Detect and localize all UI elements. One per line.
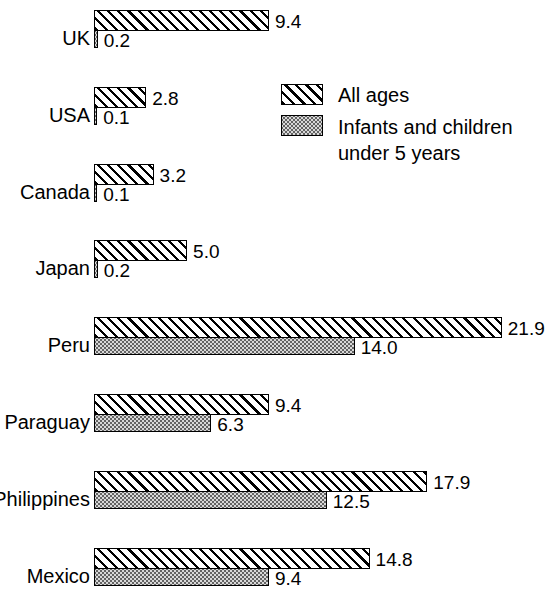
bar-infants [94, 184, 97, 202]
legend-swatch-infants-icon [281, 115, 323, 136]
value-label-all-ages: 3.2 [160, 166, 186, 185]
category-label: UK [0, 28, 90, 48]
value-label-infants: 0.2 [104, 261, 130, 280]
bar-all-ages [94, 471, 427, 492]
category-label: Paraguay [0, 412, 90, 432]
value-label-all-ages: 9.4 [275, 12, 301, 31]
value-label-all-ages: 14.8 [376, 550, 413, 569]
value-label-all-ages: 5.0 [193, 242, 219, 261]
category-label: Mexico [0, 566, 90, 586]
bar-all-ages [94, 240, 187, 261]
legend-label-infants-line1: Infants and children [338, 116, 513, 138]
bar-all-ages [94, 164, 154, 185]
bar-all-ages [94, 10, 269, 31]
category-label: Japan [0, 258, 90, 278]
value-label-all-ages: 17.9 [433, 473, 470, 492]
bar-infants [94, 30, 98, 48]
bar-all-ages [94, 394, 269, 415]
bar-infants [94, 491, 327, 509]
value-label-infants: 0.2 [104, 31, 130, 50]
value-label-all-ages: 2.8 [152, 89, 178, 108]
legend-swatch-all-ages-icon [281, 84, 323, 105]
value-label-all-ages: 21.9 [508, 319, 545, 338]
legend-label-infants: Infants and childrenunder 5 years [338, 114, 513, 166]
value-label-infants: 0.1 [103, 108, 129, 127]
category-label: Philippines [0, 489, 90, 509]
value-label-infants: 12.5 [333, 492, 370, 511]
bar-infants [94, 107, 97, 125]
category-label: Peru [0, 335, 90, 355]
value-label-infants: 6.3 [217, 415, 243, 434]
value-label-infants: 9.4 [275, 569, 301, 588]
bar-all-ages [94, 317, 502, 338]
bar-infants [94, 337, 355, 355]
bar-infants [94, 568, 269, 586]
bar-all-ages [94, 87, 146, 108]
category-label: USA [0, 105, 90, 125]
value-label-infants: 14.0 [361, 338, 398, 357]
category-label: Canada [0, 182, 90, 202]
bar-infants [94, 414, 211, 432]
value-label-infants: 0.1 [103, 185, 129, 204]
legend-label-infants-line2: under 5 years [338, 142, 460, 164]
bar-all-ages [94, 548, 370, 569]
value-label-all-ages: 9.4 [275, 396, 301, 415]
legend-label-all-ages: All ages [338, 83, 409, 107]
bar-infants [94, 260, 98, 278]
